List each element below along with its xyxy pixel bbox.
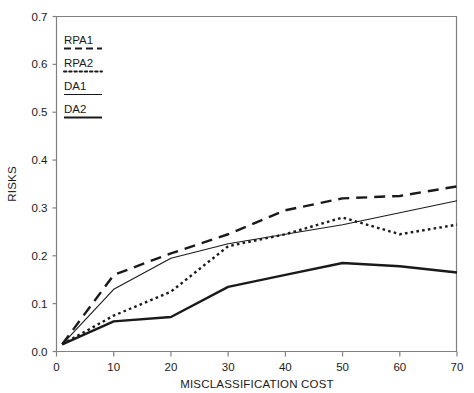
y-tick-label: 0.2 — [32, 250, 48, 262]
y-tick-label: 0.4 — [32, 154, 49, 166]
x-tick-label: 30 — [222, 361, 235, 373]
x-tick-label: 10 — [107, 361, 120, 373]
x-tick-label: 20 — [165, 361, 178, 373]
y-tick-label: 0.3 — [32, 202, 48, 214]
chart-plot-area: 0.00.10.20.30.40.50.60.7 010203040506070… — [0, 0, 474, 393]
chart-figure: 0.00.10.20.30.40.50.60.7 010203040506070… — [0, 0, 474, 393]
legend-item-da1: DA1 — [64, 80, 102, 95]
legend-label: RPA2 — [64, 57, 93, 69]
legend-item-rpa2: RPA2 — [64, 57, 102, 72]
y-axis-title: RISKS — [6, 166, 18, 202]
data-series-group — [62, 186, 457, 344]
y-tick-label: 0.6 — [32, 58, 48, 70]
y-axis-ticks: 0.00.10.20.30.40.50.60.7 — [32, 11, 57, 358]
x-axis-ticks: 010203040506070 — [53, 352, 463, 373]
x-tick-label: 0 — [53, 361, 59, 373]
legend-label: RPA1 — [64, 34, 93, 46]
x-tick-label: 60 — [393, 361, 406, 373]
series-line-da2 — [62, 263, 457, 344]
y-tick-label: 0.1 — [32, 298, 48, 310]
legend-item-da2: DA2 — [64, 103, 102, 118]
legend-label: DA2 — [64, 103, 86, 115]
axes-group — [57, 16, 458, 352]
y-tick-label: 0.5 — [32, 106, 48, 118]
y-tick-label: 0.7 — [32, 11, 48, 23]
x-tick-label: 50 — [336, 361, 349, 373]
chart-legend: RPA1RPA2DA1DA2 — [64, 34, 102, 118]
legend-label: DA1 — [64, 80, 86, 92]
y-tick-label: 0.0 — [32, 346, 48, 358]
x-tick-label: 40 — [279, 361, 292, 373]
legend-item-rpa1: RPA1 — [64, 34, 102, 49]
x-axis-title: MISCLASSIFICATION COST — [180, 378, 334, 390]
x-tick-label: 70 — [451, 361, 464, 373]
